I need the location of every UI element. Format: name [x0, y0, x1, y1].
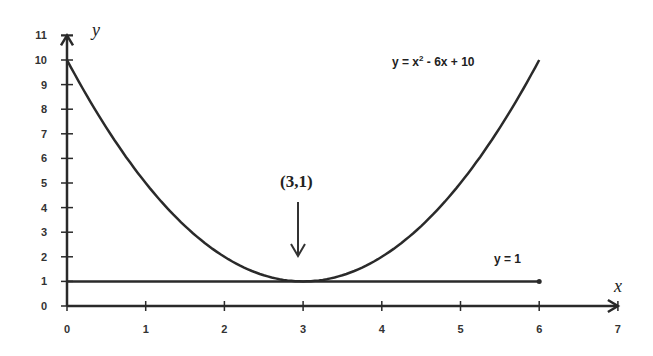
- y-tick-label: 3: [41, 226, 47, 238]
- ticks: 0123456701234567891011: [35, 29, 621, 335]
- y-tick-label: 2: [41, 251, 47, 263]
- y-tick-label: 4: [41, 202, 48, 214]
- vertex-label: (3,1): [280, 172, 313, 191]
- x-tick-label: 1: [143, 323, 149, 335]
- parabola-equation-label: y = x2 - 6x + 10: [392, 54, 475, 69]
- x-tick-label: 2: [221, 323, 227, 335]
- x-tick-label: 3: [300, 323, 306, 335]
- x-tick-label: 7: [615, 323, 621, 335]
- y-tick-label: 10: [35, 54, 47, 66]
- y-tick-label: 6: [41, 152, 47, 164]
- y-tick-label: 9: [41, 79, 47, 91]
- x-tick-label: 4: [379, 323, 386, 335]
- x-tick-label: 0: [64, 323, 70, 335]
- line-equation-label: y = 1: [494, 252, 521, 266]
- y-tick-label: 7: [41, 128, 47, 140]
- y-tick-label: 0: [41, 300, 47, 312]
- y-tick-label: 8: [41, 103, 47, 115]
- x-tick-label: 5: [457, 323, 463, 335]
- line-endpoint: [537, 279, 542, 284]
- x-tick-label: 6: [536, 323, 542, 335]
- y-tick-label: 5: [41, 177, 47, 189]
- x-axis-label: x: [613, 276, 622, 296]
- y-tick-label: 11: [35, 29, 47, 41]
- y-tick-label: 1: [41, 275, 47, 287]
- y-axis-label: y: [90, 20, 100, 40]
- axes: [61, 35, 618, 312]
- chart: 0123456701234567891011 y x y = x2 - 6x +…: [0, 0, 653, 356]
- arrow-down-icon: [291, 202, 305, 256]
